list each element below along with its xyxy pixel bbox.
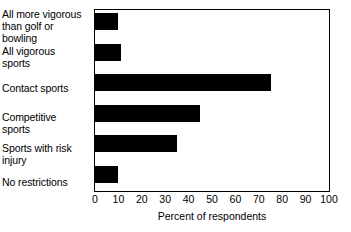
category-axis: All more vigorous than golf or bowling A… [0,8,92,192]
category-label-line: All more vigorous [2,8,92,20]
category-label-line: sports [2,123,92,135]
bar-slot [95,71,329,102]
x-tick-label: 90 [300,193,312,205]
x-tick-label: 10 [113,193,125,205]
category-label-5: No restrictions [2,176,92,188]
x-tick-label: 100 [320,193,338,205]
category-label-line: All vigorous [2,45,92,57]
category-label-4: Sports with risk injury [2,142,92,166]
category-label-1: All vigorous sports [2,45,92,69]
category-label-line: Contact sports [2,82,92,94]
x-tick-label: 80 [276,193,288,205]
category-label-line: No restrictions [2,176,92,188]
category-label-line: Sports with risk [2,142,92,154]
category-label-0: All more vigorous than golf or bowling [2,8,92,45]
category-label-line: Competitive [2,111,92,123]
horizontal-bar-chart: All more vigorous than golf or bowling A… [0,0,351,232]
category-label-line: than golf or [2,20,92,32]
x-axis-ticks: 0102030405060708090100 [94,193,330,207]
bar-slot [95,163,329,194]
bar [95,74,271,91]
bar-slot [95,41,329,72]
x-axis-title: Percent of respondents [94,210,330,222]
bar [95,44,121,61]
category-label-2: Contact sports [2,82,92,94]
x-tick-label: 30 [159,193,171,205]
x-tick-label: 0 [92,193,98,205]
x-tick-label: 50 [206,193,218,205]
x-tick-label: 40 [183,193,195,205]
x-tick-label: 60 [230,193,242,205]
x-tick-label: 70 [253,193,265,205]
bars-layer [95,10,329,191]
bar-slot [95,10,329,41]
plot-area [94,9,330,192]
category-label-line: injury [2,154,92,166]
bar-slot [95,132,329,163]
bar [95,105,200,122]
bar [95,13,118,30]
category-label-line: sports [2,57,92,69]
x-tick-label: 20 [136,193,148,205]
bar-slot [95,102,329,133]
category-label-3: Competitive sports [2,111,92,135]
category-label-line: bowling [2,32,92,44]
bar [95,166,118,183]
bar [95,135,177,152]
